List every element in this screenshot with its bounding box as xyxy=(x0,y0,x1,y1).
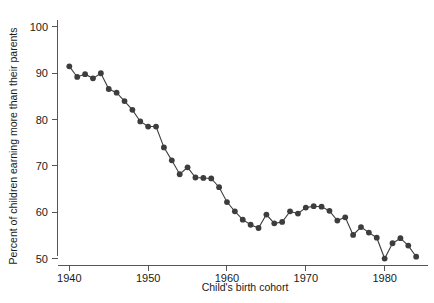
data-point xyxy=(224,199,230,205)
y-tick-label: 60 xyxy=(36,206,48,218)
data-point xyxy=(200,175,206,181)
data-point xyxy=(240,217,246,223)
data-point xyxy=(342,214,348,220)
x-tick-label: 1950 xyxy=(136,272,160,284)
data-point xyxy=(208,176,214,182)
data-point xyxy=(319,204,325,210)
data-point xyxy=(350,232,356,238)
line-chart: Percent of children earning more than th… xyxy=(0,0,434,303)
data-point xyxy=(137,119,143,125)
data-point xyxy=(398,235,404,241)
y-axis-title: Percent of children earning more than th… xyxy=(7,28,19,265)
data-series xyxy=(66,63,419,261)
data-point xyxy=(279,219,285,225)
data-point xyxy=(106,86,112,92)
data-point xyxy=(374,235,380,241)
data-point xyxy=(382,256,388,262)
y-axis-ticks: 5060708090100 xyxy=(30,21,58,265)
y-tick-label: 50 xyxy=(36,253,48,265)
y-tick-label: 70 xyxy=(36,160,48,172)
data-point xyxy=(161,144,167,150)
data-point xyxy=(232,208,238,214)
data-point xyxy=(74,74,80,80)
x-tick-label: 1960 xyxy=(215,272,239,284)
y-tick-label: 80 xyxy=(36,114,48,126)
data-point xyxy=(216,184,222,190)
data-point xyxy=(358,224,364,230)
data-point xyxy=(311,203,317,209)
data-point xyxy=(145,124,151,130)
data-point xyxy=(177,171,183,177)
data-point xyxy=(256,225,262,231)
data-point xyxy=(248,222,254,228)
data-point xyxy=(98,70,104,76)
x-tick-label: 1980 xyxy=(372,272,396,284)
y-tick-label: 90 xyxy=(36,67,48,79)
data-point xyxy=(185,164,191,170)
data-point xyxy=(122,98,128,104)
data-point xyxy=(193,175,199,181)
data-point xyxy=(90,75,96,81)
data-point xyxy=(366,230,372,236)
data-point xyxy=(153,124,159,130)
y-tick-label: 100 xyxy=(30,21,48,33)
data-point xyxy=(114,90,120,96)
series-line xyxy=(69,66,416,258)
data-point xyxy=(264,212,270,218)
x-tick-label: 1970 xyxy=(294,272,318,284)
data-point xyxy=(390,240,396,246)
data-point xyxy=(405,243,411,249)
data-point xyxy=(66,63,72,69)
data-point xyxy=(169,157,175,163)
data-point xyxy=(295,211,301,217)
data-point xyxy=(271,220,277,226)
data-point xyxy=(82,71,88,77)
data-point xyxy=(303,205,309,211)
chart-figure: Percent of children earning more than th… xyxy=(0,0,434,303)
data-point xyxy=(327,208,333,214)
data-point xyxy=(334,218,340,224)
data-point xyxy=(287,208,293,214)
data-point xyxy=(413,254,419,260)
x-axis-ticks: 19401950196019701980 xyxy=(57,266,397,285)
data-point xyxy=(129,107,135,113)
x-tick-label: 1940 xyxy=(57,272,81,284)
